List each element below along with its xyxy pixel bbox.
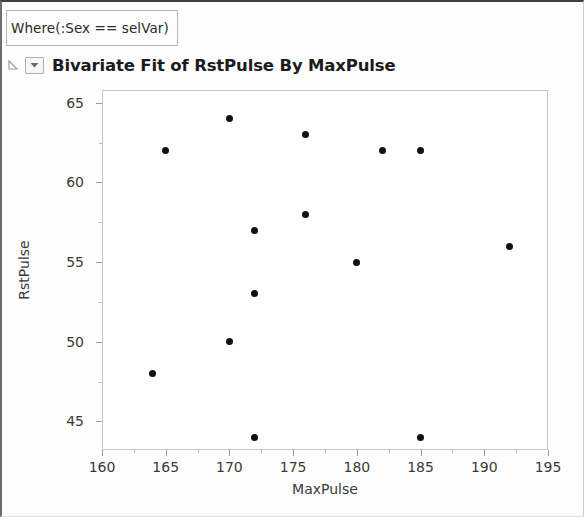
y-axis-tick-label: 50 — [30, 334, 84, 350]
x-axis-minor-tick — [261, 450, 262, 453]
x-axis-minor-tick — [516, 450, 517, 453]
y-axis-tick-label: 60 — [30, 174, 84, 190]
x-axis-tick-label: 165 — [136, 459, 196, 475]
x-axis-tick-label: 190 — [454, 459, 514, 475]
x-axis-tick — [548, 450, 549, 456]
x-axis-tick — [166, 450, 167, 456]
data-point[interactable] — [251, 434, 258, 441]
chevron-down-icon[interactable] — [25, 57, 44, 74]
y-axis-tick-label: 55 — [30, 254, 84, 270]
data-point[interactable] — [506, 243, 513, 250]
jmp-report-window: Where(:Sex == selVar) Bivariate Fit of R… — [0, 0, 584, 517]
x-axis-minor-tick — [198, 450, 199, 453]
x-axis-minor-tick — [452, 450, 453, 453]
x-axis-tick-label: 170 — [199, 459, 259, 475]
x-axis-tick-label: 195 — [518, 459, 578, 475]
x-axis-tick-label: 175 — [263, 459, 323, 475]
x-axis-minor-tick — [389, 450, 390, 453]
data-point[interactable] — [302, 131, 309, 138]
x-axis-tick — [229, 450, 230, 456]
data-point[interactable] — [226, 338, 233, 345]
x-axis-tick-label: 160 — [72, 459, 132, 475]
data-point[interactable] — [251, 227, 258, 234]
x-axis-tick-label: 185 — [391, 459, 451, 475]
plot-frame — [102, 90, 548, 450]
y-axis-tick-label: 45 — [30, 413, 84, 429]
x-axis-tick — [293, 450, 294, 456]
data-point[interactable] — [302, 211, 309, 218]
outline-node-header[interactable]: Bivariate Fit of RstPulse By MaxPulse — [6, 52, 576, 78]
data-point[interactable] — [417, 434, 424, 441]
data-point[interactable] — [417, 147, 424, 154]
data-point[interactable] — [379, 147, 386, 154]
data-point[interactable] — [251, 290, 258, 297]
x-axis-tick — [357, 450, 358, 456]
x-axis-tick — [484, 450, 485, 456]
x-axis-tick — [102, 450, 103, 456]
x-axis-minor-tick — [134, 450, 135, 453]
data-point[interactable] — [149, 370, 156, 377]
y-axis-tick-label: 65 — [30, 95, 84, 111]
x-axis-title: MaxPulse — [102, 481, 548, 497]
triangle-collapse-icon[interactable] — [6, 58, 20, 72]
x-axis-minor-tick — [325, 450, 326, 453]
x-axis-tick — [421, 450, 422, 456]
data-point[interactable] — [353, 259, 360, 266]
page-title: Bivariate Fit of RstPulse By MaxPulse — [52, 56, 396, 75]
where-filter-text: Where(:Sex == selVar) — [7, 20, 169, 36]
where-filter-box[interactable]: Where(:Sex == selVar) — [6, 10, 178, 46]
data-point[interactable] — [226, 115, 233, 122]
scatter-plot: RstPulse MaxPulse 4550556065160165170175… — [2, 80, 584, 517]
data-point[interactable] — [162, 147, 169, 154]
x-axis-tick-label: 180 — [327, 459, 387, 475]
